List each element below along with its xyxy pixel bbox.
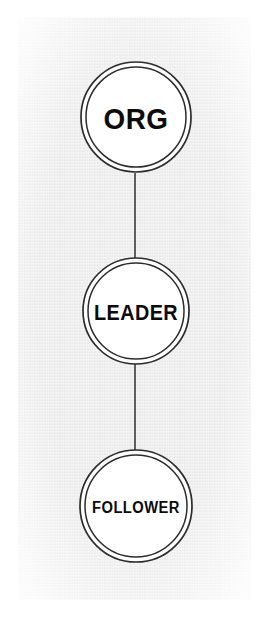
diagram-canvas: ORG LEADER FOLLOWER [0,0,269,617]
node-org-label: ORG [104,102,169,135]
node-leader[interactable]: LEADER [83,258,189,364]
hierarchy-graph: ORG LEADER FOLLOWER [0,0,269,617]
node-follower[interactable]: FOLLOWER [80,450,192,562]
node-follower-label: FOLLOWER [92,498,180,516]
node-org[interactable]: ORG [81,62,191,172]
node-leader-label: LEADER [94,300,178,324]
